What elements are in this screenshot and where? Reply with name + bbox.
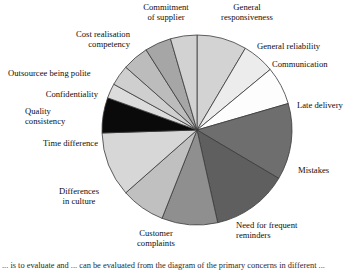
slice-label-late-delivery: Late delivery <box>297 100 359 110</box>
slice-label-mistakes: Mistakes <box>298 165 354 175</box>
slice-label-outsourcee-being-polite: Outsourcee being polite <box>8 68 128 78</box>
slice-label-communication: Communication <box>272 59 358 69</box>
pie-slice-group <box>102 35 292 225</box>
slice-label-differences-in-culture: Differences in culture <box>43 186 115 206</box>
pie-chart-figure: Commitment of supplier General responsiv… <box>0 0 359 271</box>
slice-label-general-responsiveness: General responsiveness <box>203 2 291 22</box>
slice-label-customer-complaints: Customer complaints <box>120 228 192 248</box>
slice-label-cost-realisation-competency: Cost realisation competency <box>30 29 130 49</box>
slice-label-general-reliability: General reliability <box>257 41 357 51</box>
slice-label-time-difference: Time difference <box>18 138 98 148</box>
slice-label-confidentiality: Confidentiality <box>20 89 98 99</box>
slice-label-quality-consistency: Quality consistency <box>25 106 95 126</box>
figure-caption: ... is to evaluate and ... can be evalua… <box>0 261 359 271</box>
slice-label-commitment-of-supplier: Commitment of supplier <box>127 2 205 22</box>
slice-label-need-for-frequent-reminders: Need for frequent reminders <box>236 220 336 240</box>
